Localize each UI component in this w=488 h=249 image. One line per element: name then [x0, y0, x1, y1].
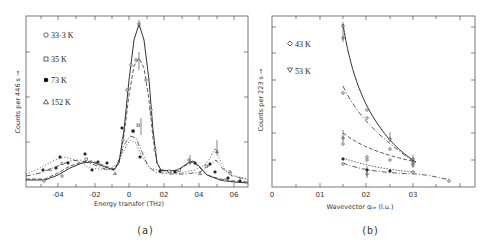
- figure: 33·3 K 35 K 73 K 152 K -04 -02 0 02 04 0…: [0, 0, 488, 249]
- curve-4: [343, 158, 416, 172]
- legend-label: 43 K: [295, 40, 311, 49]
- legend-label: 152 K: [51, 98, 71, 107]
- panel-b-y-axis-label: Counts per 223 s →: [257, 68, 265, 132]
- legend-item-35K: 35 K: [44, 55, 67, 64]
- open-diamond-icon: [288, 41, 293, 46]
- svg-text:06: 06: [230, 191, 239, 199]
- panel-a-x-axis-label: Energy transfer (THz): [94, 200, 164, 208]
- panel-b-x-tick-labels: 0 01 02 03: [270, 191, 418, 199]
- legend-label: 73 K: [51, 76, 67, 85]
- curve-5: [343, 163, 450, 180]
- legend-label: 33·3 K: [51, 31, 74, 40]
- legend-item-53K: 53 K: [288, 67, 312, 76]
- panel-a-legend: 33·3 K 35 K 73 K 152 K: [44, 31, 74, 107]
- svg-text:0: 0: [270, 191, 274, 199]
- legend-label: 35 K: [51, 55, 67, 64]
- svg-text:0: 0: [127, 191, 131, 199]
- panel-a: 33·3 K 35 K 73 K 152 K -04 -02 0 02 04 0…: [14, 16, 248, 236]
- panel-b-x-axis-label: Wavevector q₀ₑ (l.u.): [326, 203, 393, 211]
- svg-text:-02: -02: [89, 191, 100, 199]
- filled-circle-icon: [44, 78, 49, 83]
- panel-b: 43 K 53 K 0 01 02 03 Wavevector q₀ₑ (l.u…: [257, 16, 475, 236]
- legend-label: 53 K: [295, 67, 311, 76]
- legend-item-43K: 43 K: [288, 40, 312, 49]
- panel-a-caption: (a): [136, 225, 154, 236]
- panel-b-caption: (b): [361, 225, 379, 236]
- open-down-triangle-icon: [288, 68, 293, 72]
- open-circle-icon: [44, 33, 48, 37]
- svg-text:02: 02: [160, 191, 169, 199]
- panel-a-x-tick-labels: -04 -02 0 02 04 06: [52, 191, 239, 199]
- panel-b-curves: [343, 24, 450, 180]
- legend-item-33K: 33·3 K: [44, 31, 74, 40]
- svg-text:-04: -04: [52, 191, 64, 199]
- panel-a-data-points: [42, 20, 242, 182]
- open-square-icon: [44, 57, 48, 61]
- open-triangle-icon: [44, 100, 49, 104]
- curve-1: [343, 24, 416, 162]
- legend-item-73K: 73 K: [44, 76, 67, 85]
- curve-2: [343, 86, 416, 163]
- panel-a-y-axis-label: Counts per 446 s →: [14, 70, 22, 134]
- svg-text:04: 04: [195, 191, 204, 199]
- curve-3: [343, 133, 416, 162]
- panel-b-data-points: [342, 22, 451, 182]
- panel-b-legend: 43 K 53 K: [288, 40, 312, 76]
- svg-text:02: 02: [362, 191, 371, 199]
- svg-text:03: 03: [409, 191, 418, 199]
- svg-text:01: 01: [316, 191, 325, 199]
- legend-item-152K: 152 K: [44, 98, 72, 107]
